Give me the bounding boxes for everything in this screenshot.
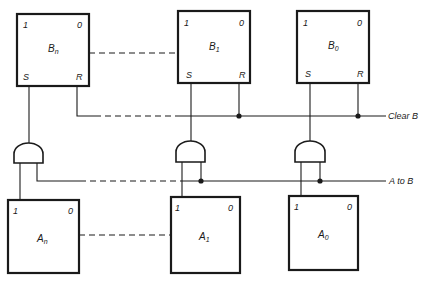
flip-flop-a1: 1 0 A1 xyxy=(171,197,240,273)
register-transfer-diagram: Clear B A to B 1 0 S R Bn 1 0 S R B1 xyxy=(0,0,430,285)
svg-text:1: 1 xyxy=(13,206,18,216)
clear-b-label: Clear B xyxy=(388,111,418,121)
svg-text:S: S xyxy=(305,69,311,79)
junction-dot xyxy=(198,178,203,183)
svg-text:1: 1 xyxy=(303,18,308,28)
flip-flop-a0: 1 0 A0 xyxy=(289,196,358,270)
svg-text:R: R xyxy=(239,70,246,80)
a-to-b-label: A to B xyxy=(388,176,413,186)
svg-text:0: 0 xyxy=(239,18,244,28)
svg-text:0: 0 xyxy=(228,203,233,213)
clear-b-line xyxy=(77,83,386,119)
a-to-b-line xyxy=(37,162,386,184)
svg-text:1: 1 xyxy=(23,20,28,30)
and-gate-0-icon xyxy=(295,141,325,162)
svg-text:1: 1 xyxy=(175,203,180,213)
svg-text:0: 0 xyxy=(357,18,362,28)
flip-flop-bn: 1 0 S R Bn xyxy=(17,14,89,86)
svg-text:1: 1 xyxy=(294,202,299,212)
junction-dot xyxy=(317,178,322,183)
flip-flop-b1: 1 0 S R B1 xyxy=(178,11,250,83)
and-gate-1-icon xyxy=(176,141,205,162)
junction-dot xyxy=(236,113,241,118)
junction-dot xyxy=(355,113,360,118)
flip-flop-b0: 1 0 S R B0 xyxy=(297,11,369,83)
svg-text:R: R xyxy=(76,72,83,82)
svg-text:R: R xyxy=(357,69,364,79)
svg-text:0: 0 xyxy=(347,202,352,212)
and-gate-n-icon xyxy=(14,143,43,163)
svg-text:0: 0 xyxy=(68,206,73,216)
svg-text:S: S xyxy=(23,72,29,82)
svg-text:S: S xyxy=(186,70,192,80)
svg-text:0: 0 xyxy=(77,20,82,30)
svg-text:1: 1 xyxy=(184,18,189,28)
flip-flop-an: 1 0 An xyxy=(8,200,79,273)
